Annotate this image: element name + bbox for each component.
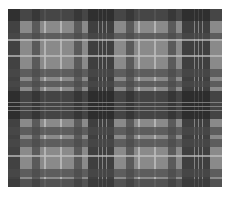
horizontal-stripe bbox=[8, 169, 222, 177]
horizontal-stripe bbox=[8, 102, 222, 103]
horizontal-stripe bbox=[8, 81, 222, 87]
tartan-fabric-swatch bbox=[8, 9, 222, 187]
horizontal-stripe bbox=[8, 39, 222, 41]
horizontal-stripe bbox=[8, 127, 222, 135]
horizontal-stripe bbox=[8, 91, 222, 119]
horizontal-stripe bbox=[8, 106, 222, 107]
horizontal-stripe bbox=[8, 69, 222, 77]
horizontal-stripe bbox=[8, 110, 222, 111]
horizontal-stripe bbox=[8, 139, 222, 147]
horizontal-stripe bbox=[8, 179, 222, 187]
horizontal-stripe bbox=[8, 9, 222, 21]
horizontal-stripe bbox=[8, 155, 222, 157]
horizontal-stripe bbox=[8, 55, 222, 57]
